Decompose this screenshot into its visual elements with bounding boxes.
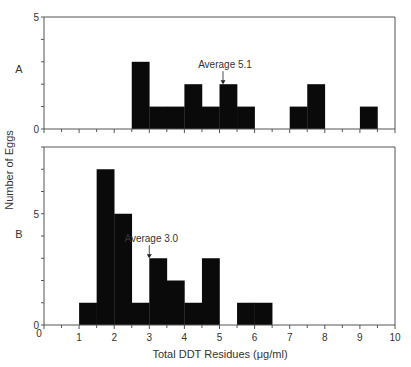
- x-tick-label: 1: [76, 332, 82, 343]
- y-tick-label: 5: [33, 12, 39, 23]
- x-axis-label: Total DDT Residues (μg/ml): [152, 348, 287, 360]
- histogram-bar: [79, 303, 97, 325]
- histogram-bar: [114, 214, 132, 325]
- ddt-histogram-chart: 05AAverage 5.1 05012345678910BAverage 3.…: [0, 0, 411, 367]
- histogram-bar: [149, 258, 167, 325]
- histogram-bar: [237, 303, 255, 325]
- histogram-bar: [97, 169, 115, 325]
- x-tick-label: 7: [287, 332, 293, 343]
- histogram-bar: [184, 303, 202, 325]
- histogram-bar: [184, 84, 202, 129]
- y-tick-label: 5: [33, 209, 39, 220]
- average-annotation: Average 5.1: [198, 59, 252, 70]
- panel-a: 05AAverage 5.1: [15, 12, 395, 135]
- y-tick-label: 0: [33, 124, 39, 135]
- average-annotation: Average 3.0: [124, 233, 178, 244]
- histogram-bar: [360, 107, 378, 129]
- histogram-bar: [167, 281, 185, 326]
- x-tick-label: 3: [147, 332, 153, 343]
- histogram-bar: [202, 107, 220, 129]
- histogram-bar: [237, 107, 255, 129]
- arrowhead-icon: [221, 80, 226, 84]
- histogram-bar: [290, 107, 308, 129]
- histogram-bar: [307, 84, 325, 129]
- x-tick-label: 2: [111, 332, 117, 343]
- x-tick-label: 6: [252, 332, 258, 343]
- histogram-bar: [167, 107, 185, 129]
- arrowhead-icon: [147, 254, 152, 258]
- x-tick-label: 8: [322, 332, 328, 343]
- x-tick-label: 5: [217, 332, 223, 343]
- histogram-bar: [255, 303, 273, 325]
- histogram-bar: [220, 84, 238, 129]
- histogram-bar: [202, 258, 220, 325]
- histogram-bar: [132, 62, 150, 129]
- panel-label: A: [15, 63, 23, 75]
- x-tick-label: 10: [389, 332, 401, 343]
- panel-b: 05012345678910BAverage 3.0: [15, 147, 401, 343]
- x-tick-label: 9: [357, 332, 363, 343]
- y-axis-label: Number of Eggs: [3, 130, 15, 210]
- panel-label: B: [15, 228, 22, 240]
- x-tick-label: 0: [36, 328, 42, 339]
- x-tick-label: 4: [182, 332, 188, 343]
- histogram-bar: [132, 303, 150, 325]
- histogram-bar: [149, 107, 167, 129]
